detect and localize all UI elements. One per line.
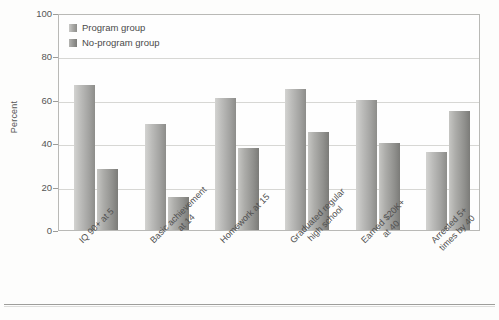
legend-item: Program group — [69, 21, 160, 34]
bar — [426, 152, 447, 230]
bar — [285, 89, 306, 230]
chart-legend: Program group No-program group — [69, 21, 160, 51]
y-tick-label: 40 — [24, 138, 52, 149]
bottom-divider-shadow — [4, 306, 495, 307]
legend-label-program: Program group — [82, 22, 145, 33]
legend-item: No-program group — [69, 36, 160, 49]
x-axis-labels: IQ 90+ at 5Basic achievementat 14Homewor… — [0, 236, 499, 306]
y-tick-label: 20 — [24, 182, 52, 193]
legend-swatch-no-program-icon — [69, 39, 77, 47]
bar — [74, 85, 95, 230]
y-tick-label: 100 — [24, 8, 52, 19]
bar — [145, 124, 166, 230]
y-axis-title: Percent — [9, 87, 19, 147]
bottom-divider — [4, 304, 495, 305]
legend-label-no-program: No-program group — [82, 37, 160, 48]
bar — [215, 98, 236, 230]
y-tick-label: 0 — [24, 225, 52, 236]
y-tick-label: 60 — [24, 95, 52, 106]
y-tick-mark — [53, 231, 58, 232]
bar — [356, 100, 377, 230]
bar-chart: Percent 100806040200 Program group No-pr… — [0, 0, 499, 320]
y-tick-label: 80 — [24, 51, 52, 62]
legend-swatch-program-icon — [69, 24, 77, 32]
